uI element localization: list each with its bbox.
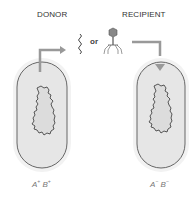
bacteriophage-icon bbox=[104, 28, 122, 54]
recipient-genotype: A− B− bbox=[150, 178, 169, 189]
recipient-cell bbox=[133, 58, 189, 172]
donor-label: DONOR bbox=[37, 10, 67, 19]
or-label: or bbox=[90, 37, 98, 46]
donor-arrow-head bbox=[60, 46, 66, 54]
recipient-arrow bbox=[132, 42, 160, 56]
dna-fragment-icon bbox=[79, 34, 82, 54]
donor-cell bbox=[13, 58, 71, 172]
transduction-diagram bbox=[0, 0, 195, 205]
donor-genotype: A+ B+ bbox=[32, 178, 51, 189]
recipient-label: RECIPIENT bbox=[122, 10, 166, 19]
